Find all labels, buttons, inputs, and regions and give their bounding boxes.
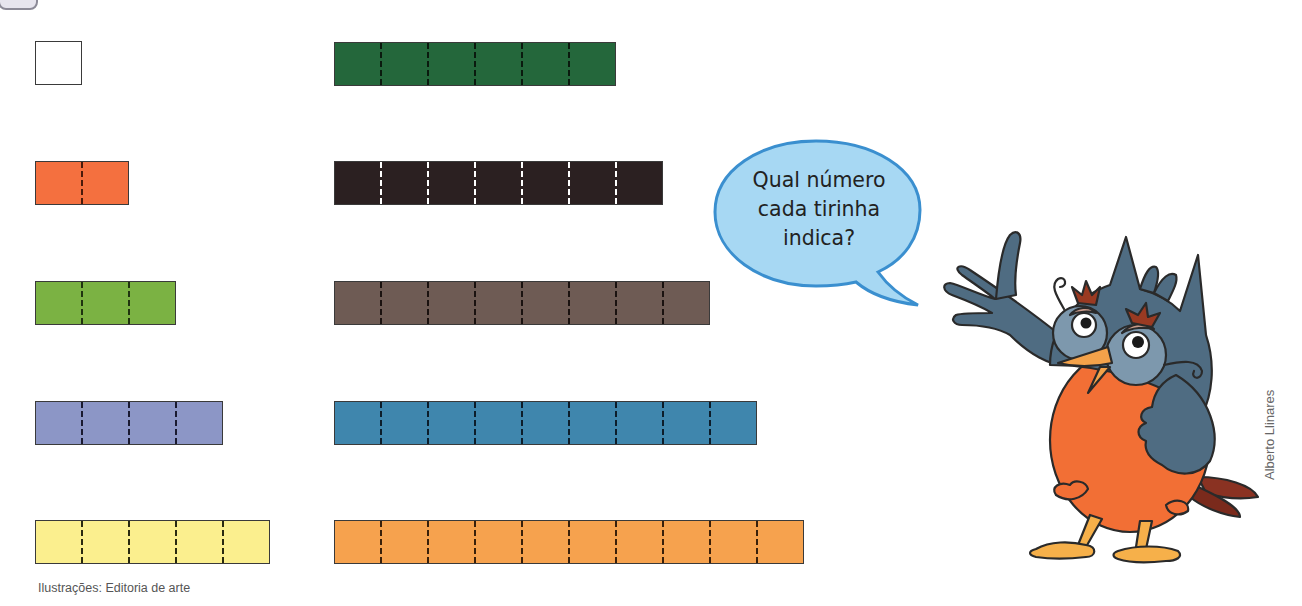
strip-unit [615, 521, 662, 563]
strip-unit [222, 521, 269, 563]
strip-unit [662, 521, 709, 563]
strip-unit [175, 402, 222, 444]
strip-unit [427, 162, 474, 204]
strip-unit [36, 521, 81, 563]
strip-4 [35, 401, 223, 445]
strip-unit [380, 43, 427, 85]
strip-unit [380, 282, 427, 324]
strip-unit [36, 282, 81, 324]
bubble-line-1: Qual número [724, 166, 914, 195]
strip-unit [427, 282, 474, 324]
speech-bubble: Qual número cada tirinha indica? [712, 138, 942, 313]
artist-credit: Alberto Llinares [1262, 390, 1277, 480]
strip-unit [427, 402, 474, 444]
strip-unit [474, 43, 521, 85]
strip-unit [335, 402, 380, 444]
strip-unit [81, 402, 128, 444]
strip-unit [335, 282, 380, 324]
strip-unit [709, 521, 756, 563]
strip-unit [521, 402, 568, 444]
strip-unit [474, 402, 521, 444]
strip-3 [35, 281, 176, 325]
strip-unit [36, 42, 81, 84]
strip-unit [81, 521, 128, 563]
strip-unit [335, 43, 380, 85]
strip-unit [568, 162, 615, 204]
strip-unit [36, 162, 81, 204]
strip-unit [128, 282, 175, 324]
strip-unit [128, 521, 175, 563]
strip-unit [615, 282, 662, 324]
strip-unit [568, 282, 615, 324]
strip-unit [81, 282, 128, 324]
strip-unit [36, 402, 81, 444]
strip-unit [521, 43, 568, 85]
strip-unit [568, 43, 615, 85]
strip-unit [128, 402, 175, 444]
strip-10 [334, 520, 804, 564]
strip-9 [334, 401, 757, 445]
strip-unit [662, 282, 709, 324]
owl-character [940, 215, 1270, 574]
owl-illustration-icon [940, 215, 1270, 570]
strip-unit [662, 402, 709, 444]
strip-unit [427, 43, 474, 85]
strip-unit [521, 162, 568, 204]
strip-unit [474, 282, 521, 324]
strip-unit [568, 521, 615, 563]
strip-unit [568, 402, 615, 444]
strip-unit [175, 521, 222, 563]
strip-7 [334, 161, 663, 205]
strip-1 [35, 41, 82, 85]
strip-unit [756, 521, 803, 563]
strip-unit [521, 521, 568, 563]
strip-unit [335, 521, 380, 563]
strip-unit [474, 162, 521, 204]
strip-unit [380, 162, 427, 204]
strip-unit [615, 402, 662, 444]
strip-unit [709, 402, 756, 444]
strip-2 [35, 161, 129, 205]
strip-unit [521, 282, 568, 324]
strip-unit [380, 402, 427, 444]
bubble-line-2: cada tirinha [724, 195, 914, 224]
strip-unit [474, 521, 521, 563]
exercise-number-badge [0, 0, 38, 10]
strip-unit [427, 521, 474, 563]
speech-bubble-text: Qual número cada tirinha indica? [724, 166, 914, 253]
strip-unit [81, 162, 128, 204]
strip-5 [35, 520, 270, 564]
strip-unit [380, 521, 427, 563]
strip-unit [615, 162, 662, 204]
strip-6 [334, 42, 616, 86]
bubble-line-3: indica? [724, 224, 914, 253]
strip-8 [334, 281, 710, 325]
strip-unit [335, 162, 380, 204]
illustrations-credit: Ilustrações: Editoria de arte [38, 581, 190, 595]
